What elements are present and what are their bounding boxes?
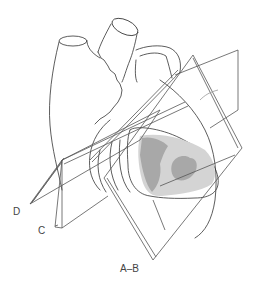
ventricle-boundary [95,52,122,124]
plane-back [175,50,238,128]
plane-c [55,160,108,228]
plane-ab-label: A–B [120,263,139,274]
plane-c-label: C [38,225,45,236]
plane-d-label: D [13,206,20,217]
heart-diagram [0,0,257,294]
cross-section-shading [138,135,215,196]
pulmonary-trunk [98,15,141,82]
